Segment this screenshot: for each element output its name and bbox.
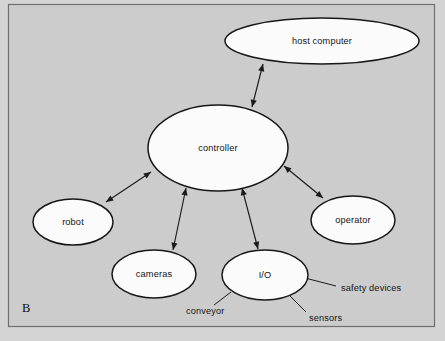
leader-label-conveyor: conveyor bbox=[186, 306, 224, 316]
node-cameras[interactable]: cameras bbox=[112, 250, 196, 298]
leader-label-sensors: sensors bbox=[309, 313, 342, 323]
node-controller[interactable]: controller bbox=[148, 105, 288, 191]
node-label-operator: operator bbox=[335, 215, 370, 225]
node-robot[interactable]: robot bbox=[33, 199, 113, 245]
node-label-robot: robot bbox=[62, 217, 84, 227]
node-label-cameras: cameras bbox=[136, 269, 173, 279]
leader-label-safety-devices: safety devices bbox=[341, 283, 402, 293]
panel-letter: B bbox=[22, 301, 30, 315]
node-label-host-computer: host computer bbox=[292, 36, 352, 46]
node-operator[interactable]: operator bbox=[311, 196, 395, 244]
node-io[interactable]: I/O bbox=[222, 250, 308, 300]
node-host-computer[interactable]: host computer bbox=[225, 18, 419, 64]
node-label-io: I/O bbox=[259, 270, 272, 280]
node-label-controller: controller bbox=[198, 143, 237, 153]
diagram-canvas: host computercontrollerrobotcamerasI/Oop… bbox=[0, 0, 445, 341]
figure-root: host computercontrollerrobotcamerasI/Oop… bbox=[0, 0, 445, 341]
